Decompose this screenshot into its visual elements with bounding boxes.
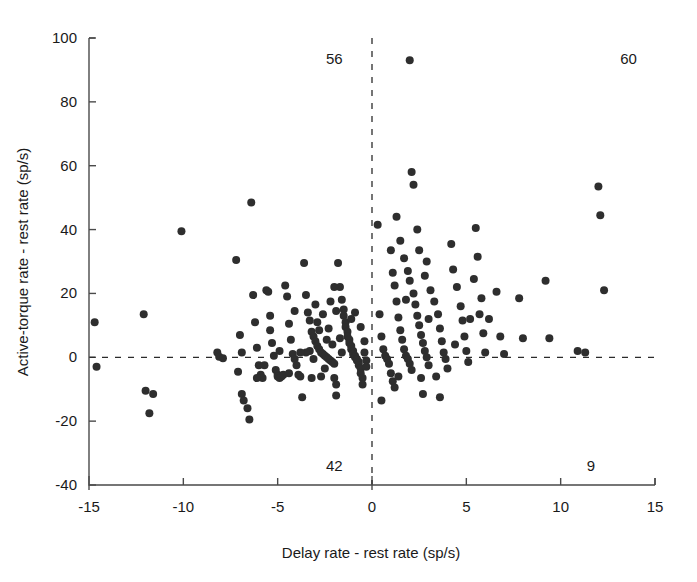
data-point bbox=[311, 301, 319, 309]
y-tick-label: 40 bbox=[60, 221, 77, 238]
data-point bbox=[330, 360, 338, 368]
data-point bbox=[432, 372, 440, 380]
x-tick-label: 10 bbox=[552, 498, 569, 515]
data-point bbox=[408, 366, 416, 374]
data-point bbox=[389, 269, 397, 277]
data-point bbox=[234, 368, 242, 376]
x-tick-label: 15 bbox=[647, 498, 664, 515]
data-point bbox=[410, 289, 418, 297]
data-point bbox=[177, 227, 185, 235]
data-point bbox=[285, 369, 293, 377]
data-point bbox=[413, 226, 421, 234]
data-point bbox=[357, 323, 365, 331]
data-point bbox=[421, 272, 429, 280]
data-point bbox=[453, 283, 461, 291]
data-point bbox=[91, 318, 99, 326]
data-point bbox=[423, 353, 431, 361]
y-tick-label: 80 bbox=[60, 93, 77, 110]
x-tick-label: 0 bbox=[368, 498, 376, 515]
data-point bbox=[374, 221, 382, 229]
data-point bbox=[596, 211, 604, 219]
data-point bbox=[411, 301, 419, 309]
x-tick-labels: -15-10-5051015 bbox=[78, 498, 663, 515]
data-point bbox=[485, 315, 493, 323]
data-point bbox=[515, 294, 523, 302]
data-point bbox=[457, 302, 465, 310]
data-point bbox=[519, 334, 527, 342]
x-tick-label: -5 bbox=[271, 498, 284, 515]
data-point bbox=[410, 181, 418, 189]
data-point bbox=[419, 339, 427, 347]
data-point bbox=[438, 337, 446, 345]
data-point bbox=[249, 291, 257, 299]
data-point bbox=[391, 384, 399, 392]
data-point bbox=[338, 349, 346, 357]
data-point bbox=[281, 281, 289, 289]
data-point bbox=[415, 246, 423, 254]
data-point bbox=[219, 354, 227, 362]
y-tick-label: -40 bbox=[55, 476, 77, 493]
y-tick-label: 20 bbox=[60, 284, 77, 301]
data-point bbox=[387, 369, 395, 377]
y-axis-ticks bbox=[89, 38, 96, 485]
data-point bbox=[232, 256, 240, 264]
data-point bbox=[376, 310, 384, 318]
data-point bbox=[285, 320, 293, 328]
y-axis-title: Active-torque rate - rest rate (sp/s) bbox=[14, 148, 31, 376]
data-point bbox=[310, 355, 318, 363]
data-point bbox=[264, 288, 272, 296]
data-point bbox=[302, 291, 310, 299]
data-point bbox=[423, 258, 431, 266]
data-point bbox=[479, 329, 487, 337]
data-point bbox=[145, 409, 153, 417]
data-point bbox=[149, 390, 157, 398]
x-tick-label: -10 bbox=[172, 498, 194, 515]
data-point bbox=[406, 277, 414, 285]
data-point bbox=[140, 310, 148, 318]
data-points bbox=[91, 56, 608, 423]
data-point bbox=[472, 224, 480, 232]
data-point bbox=[319, 310, 327, 318]
data-point bbox=[451, 341, 459, 349]
data-point bbox=[334, 259, 342, 267]
data-point bbox=[434, 310, 442, 318]
data-point bbox=[260, 361, 268, 369]
data-point bbox=[243, 404, 251, 412]
x-tick-label: -15 bbox=[78, 498, 100, 515]
y-tick-labels: -40-20020406080100 bbox=[52, 29, 77, 493]
data-point bbox=[247, 198, 255, 206]
data-point bbox=[251, 318, 259, 326]
data-point bbox=[304, 309, 312, 317]
data-point bbox=[266, 326, 274, 334]
data-point bbox=[377, 396, 385, 404]
data-point bbox=[413, 312, 421, 320]
data-point bbox=[393, 297, 401, 305]
data-point bbox=[332, 392, 340, 400]
data-point bbox=[408, 168, 416, 176]
data-point bbox=[481, 349, 489, 357]
data-point bbox=[542, 277, 550, 285]
data-point bbox=[245, 416, 253, 424]
data-point bbox=[426, 286, 434, 294]
reference-lines bbox=[89, 38, 655, 485]
data-point bbox=[253, 344, 261, 352]
y-tick-label: -20 bbox=[55, 412, 77, 429]
data-point bbox=[276, 347, 284, 355]
data-point bbox=[359, 380, 367, 388]
data-point bbox=[415, 321, 423, 329]
data-point bbox=[493, 288, 501, 296]
data-point bbox=[238, 349, 246, 357]
data-point bbox=[325, 325, 333, 333]
data-point bbox=[449, 265, 457, 273]
data-point bbox=[396, 326, 404, 334]
y-tick-label: 60 bbox=[60, 157, 77, 174]
data-point bbox=[298, 393, 306, 401]
data-point bbox=[404, 267, 412, 275]
data-point bbox=[460, 333, 468, 341]
data-point bbox=[500, 350, 508, 358]
data-point bbox=[393, 213, 401, 221]
data-point bbox=[394, 372, 402, 380]
data-point bbox=[496, 333, 504, 341]
data-point bbox=[400, 254, 408, 262]
data-point bbox=[313, 318, 321, 326]
